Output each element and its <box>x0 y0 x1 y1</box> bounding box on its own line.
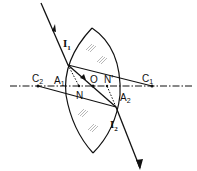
label-I1: I1 <box>63 37 71 52</box>
label-A2: A2 <box>120 92 131 104</box>
label-O: O <box>90 74 98 85</box>
label-N: N <box>76 90 83 101</box>
label-A1: A1 <box>54 75 65 87</box>
label-N-prime: N' <box>104 74 113 85</box>
emergent-ray-arrow <box>136 159 143 170</box>
glass-hatch-marks <box>78 44 107 132</box>
incident-ray <box>41 3 68 65</box>
dotted-I1-N <box>68 65 79 86</box>
label-C1: C1 <box>142 73 153 85</box>
point-N <box>78 85 80 87</box>
label-I2: I2 <box>110 118 118 133</box>
point-N-prime <box>106 85 108 87</box>
lens-ray-diagram: I1 I2 C2 C1 A1 A2 O N' N <box>0 0 197 171</box>
incident-ray-arrow <box>52 24 56 32</box>
label-C2: C2 <box>32 73 43 85</box>
emergent-ray <box>116 107 140 168</box>
